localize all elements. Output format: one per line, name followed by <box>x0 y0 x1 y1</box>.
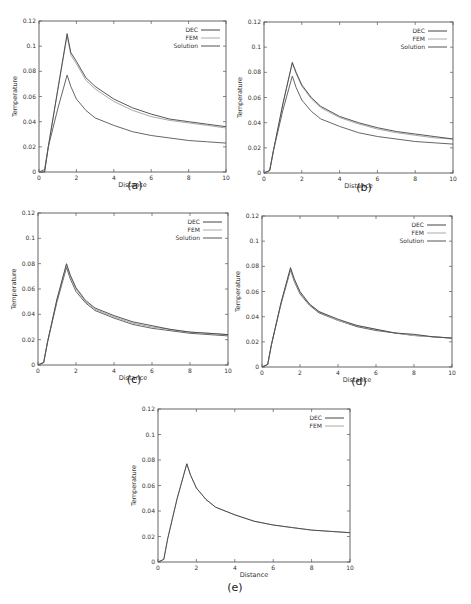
legend-label: FEM <box>412 229 424 236</box>
y-tick-label: 0.12 <box>22 209 36 216</box>
y-tick-label: 0.04 <box>142 507 156 514</box>
x-tick-label: 0 <box>262 175 266 182</box>
y-tick-label: 0.06 <box>248 94 262 101</box>
y-axis-label: Temperature <box>236 77 244 119</box>
x-tick-label: 10 <box>448 369 456 376</box>
y-tick-label: 0.08 <box>22 260 36 267</box>
y-tick-label: 0.02 <box>246 338 260 345</box>
x-tick-label: 0 <box>37 174 41 181</box>
x-tick-label: 0 <box>260 369 264 376</box>
y-tick-label: 0.08 <box>246 262 260 269</box>
y-tick-label: 0.1 <box>145 431 155 438</box>
x-tick-label: 6 <box>271 564 275 571</box>
y-tick-label: 0.1 <box>25 234 35 241</box>
series-line-dec <box>39 34 226 172</box>
series-line-dec <box>158 464 350 562</box>
legend-label: Solution <box>174 42 199 49</box>
legend-label: Solution <box>401 43 426 50</box>
chart-svg: 00.020.040.060.080.10.120246810DistanceT… <box>234 16 459 191</box>
series-line-fem <box>264 64 453 174</box>
legend-label: FEM <box>186 34 198 41</box>
x-tick-label: 8 <box>413 175 417 182</box>
legend-label: FEM <box>310 422 322 429</box>
caption-e: (e) <box>215 581 255 594</box>
x-tick-label: 2 <box>298 369 302 376</box>
x-tick-label: 2 <box>74 367 78 374</box>
y-tick-label: 0.08 <box>248 68 262 75</box>
legend-label: Solution <box>400 237 425 244</box>
y-tick-label: 0.1 <box>26 42 36 49</box>
series-line-fem <box>262 269 452 367</box>
x-tick-label: 8 <box>310 564 314 571</box>
y-tick-label: 0.06 <box>23 93 37 100</box>
x-tick-label: 8 <box>188 367 192 374</box>
x-tick-label: 2 <box>74 174 78 181</box>
series-line-fem <box>38 265 228 365</box>
y-tick-label: 0.02 <box>22 336 36 343</box>
y-tick-label: 0.08 <box>142 456 156 463</box>
y-tick-label: 0 <box>151 558 155 565</box>
y-tick-label: 0.1 <box>251 43 261 50</box>
chart-svg: 00.020.040.060.080.10.120246810DistanceT… <box>9 15 232 190</box>
series-line-fem <box>39 36 226 172</box>
x-tick-label: 4 <box>233 564 237 571</box>
y-tick-label: 0.08 <box>23 67 37 74</box>
y-tick-label: 0 <box>32 168 36 175</box>
chart-panel-e: 00.020.040.060.080.10.120246810DistanceT… <box>128 403 356 580</box>
y-tick-label: 0.02 <box>23 143 37 150</box>
x-tick-label: 2 <box>300 175 304 182</box>
x-tick-label: 4 <box>338 175 342 182</box>
y-tick-label: 0.12 <box>246 212 260 219</box>
chart-panel-a: 00.020.040.060.080.10.120246810DistanceT… <box>9 15 232 190</box>
legend-label: DEC <box>185 26 198 33</box>
x-axis-label: Distance <box>240 571 268 579</box>
y-tick-label: 0.06 <box>246 288 260 295</box>
caption-c: (c) <box>114 373 154 386</box>
x-tick-label: 0 <box>36 367 40 374</box>
legend-label: DEC <box>187 218 200 225</box>
y-tick-label: 0.12 <box>142 405 156 412</box>
x-tick-label: 10 <box>346 564 354 571</box>
chart-panel-d: 00.020.040.060.080.10.120246810DistanceT… <box>232 210 458 385</box>
y-axis-label: Temperature <box>234 271 242 313</box>
series-line-dec <box>262 268 452 367</box>
chart-panel-b: 00.020.040.060.080.10.120246810DistanceT… <box>234 16 459 191</box>
y-tick-label: 0.12 <box>248 18 262 25</box>
caption-b: (b) <box>344 181 384 194</box>
legend-label: DEC <box>411 221 424 228</box>
plot-frame <box>158 409 350 562</box>
series-line-solution <box>38 268 228 366</box>
x-tick-label: 0 <box>156 564 160 571</box>
chart-svg: 00.020.040.060.080.10.120246810DistanceT… <box>128 403 356 580</box>
y-tick-label: 0.04 <box>23 118 37 125</box>
legend-label: Solution <box>176 234 201 241</box>
series-line-dec <box>264 62 453 173</box>
legend-label: DEC <box>412 27 425 34</box>
x-tick-label: 10 <box>224 367 232 374</box>
legend-label: DEC <box>309 414 322 421</box>
y-tick-label: 0.04 <box>22 310 36 317</box>
y-axis-label: Temperature <box>130 465 138 507</box>
y-tick-label: 0.1 <box>249 237 259 244</box>
series-line-solution <box>264 76 453 173</box>
x-tick-label: 8 <box>187 174 191 181</box>
y-tick-label: 0.04 <box>248 119 262 126</box>
series-line-solution <box>39 75 226 172</box>
y-tick-label: 0 <box>257 169 261 176</box>
y-tick-label: 0.04 <box>246 313 260 320</box>
x-tick-label: 8 <box>412 369 416 376</box>
series-line-fem <box>158 464 350 562</box>
chart-svg: 00.020.040.060.080.10.120246810DistanceT… <box>8 207 234 383</box>
chart-panel-c: 00.020.040.060.080.10.120246810DistanceT… <box>8 207 234 383</box>
legend-label: FEM <box>413 35 425 42</box>
y-tick-label: 0.06 <box>22 285 36 292</box>
y-tick-label: 0 <box>31 361 35 368</box>
y-tick-label: 0 <box>255 363 259 370</box>
caption-d: (d) <box>339 375 379 388</box>
legend-label: FEM <box>188 226 200 233</box>
x-tick-label: 2 <box>194 564 198 571</box>
x-tick-label: 10 <box>222 174 230 181</box>
y-tick-label: 0.12 <box>23 17 37 24</box>
series-line-dec <box>38 264 228 365</box>
y-tick-label: 0.02 <box>142 533 156 540</box>
